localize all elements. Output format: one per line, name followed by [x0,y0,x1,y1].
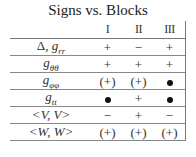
table-row: <V, V> − + − [10,107,185,124]
table-row: gφφ (+) (+) [10,73,185,90]
sign-cell: + [123,107,154,124]
row-label: gφφ [10,72,92,90]
row-label: Δ, grr [10,38,92,56]
sign-cell: + [154,39,185,56]
table-row: gtt + [10,90,185,107]
sign-cell-dot [92,90,123,107]
column-header-block-3: III [154,21,185,38]
row-label: <W, W> [10,124,92,140]
sign-cell: + [92,39,123,56]
sign-cell: − [154,107,185,124]
row-label: gθθ [10,55,92,73]
sign-cell: (+) [154,124,185,141]
sign-cell: − [123,39,154,56]
column-header-block-2: II [123,21,154,38]
column-header-block-1: I [92,21,123,38]
sign-cell: − [92,107,123,124]
sign-cell-dot [154,73,185,90]
table-title: Signs vs. Blocks [0,2,196,19]
dot-icon [167,97,173,103]
sign-cell: (+) [123,124,154,141]
sign-cell-dot [154,90,185,107]
row-label: <V, V> [10,107,92,123]
dot-icon [105,97,111,103]
signs-table: I II III Δ, grr + − + gθθ + + + gφφ (+) … [10,21,186,141]
sign-cell: (+) [92,124,123,141]
sign-cell: + [92,56,123,73]
sign-cell: + [123,56,154,73]
sign-cell: + [123,90,154,107]
sign-cell: (+) [92,73,123,90]
dot-icon [167,80,173,86]
sign-cell: + [154,56,185,73]
sign-cell: (+) [123,73,154,90]
table-row: Δ, grr + − + [10,39,185,56]
table-header-row: I II III [10,21,185,39]
table-row: <W, W> (+) (+) (+) [10,124,185,141]
row-label: gtt [10,89,92,107]
table-row: gθθ + + + [10,56,185,73]
